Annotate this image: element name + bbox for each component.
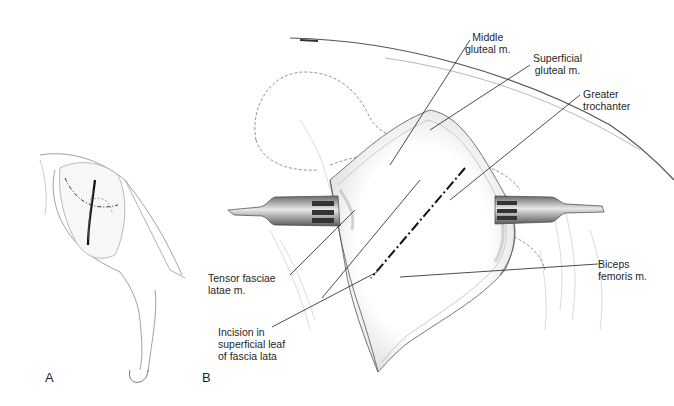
panel-a-limb bbox=[40, 154, 185, 383]
surgical-field bbox=[330, 110, 515, 372]
anatomical-figure: Middle gluteal m. Superficial gluteal m.… bbox=[0, 0, 674, 406]
label-superficial-gluteal: Superficial gluteal m. bbox=[533, 52, 582, 76]
right-retractor bbox=[495, 196, 604, 224]
label-greater-trochanter: Greater trochanter bbox=[583, 88, 630, 112]
label-middle-gluteal: Middle gluteal m. bbox=[465, 31, 511, 55]
left-retractor bbox=[228, 196, 340, 226]
panel-label-b: B bbox=[202, 370, 211, 385]
leader-superficial-gluteal bbox=[430, 65, 530, 130]
label-incision-fascia-lata: Incision in superficial leaf of fascia l… bbox=[218, 326, 285, 362]
label-biceps-femoris: Biceps femoris m. bbox=[598, 258, 647, 282]
panel-label-a: A bbox=[45, 370, 54, 385]
label-tensor-fasciae-latae: Tensor fasciae latae m. bbox=[208, 272, 276, 296]
